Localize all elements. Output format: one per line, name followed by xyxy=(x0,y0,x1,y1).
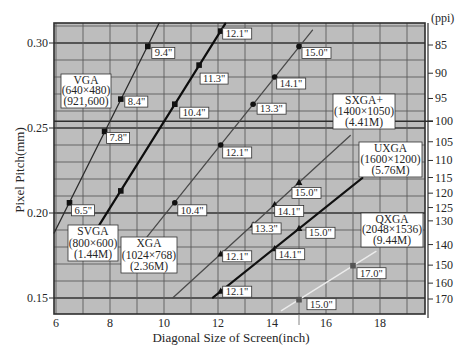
x-tick-label: 18 xyxy=(374,316,386,330)
point-label: 10.4" xyxy=(178,205,207,216)
point-label: 14.1" xyxy=(275,206,304,217)
y2-tick-label: 115 xyxy=(435,171,453,185)
square-marker-icon xyxy=(196,62,202,68)
point-label-text: 12.1" xyxy=(226,147,249,158)
x-tick-label: 12 xyxy=(212,316,224,330)
legend-box-uxga: UXGA(1600×1200)(5.76M) xyxy=(359,142,422,177)
legend-pixel-count: (921,600) xyxy=(63,95,108,108)
point-label: 11.3" xyxy=(200,73,228,84)
point-label: 6.5" xyxy=(72,205,95,216)
legend-pixel-count: (9.44M) xyxy=(373,234,411,247)
point-label-text: 12.1" xyxy=(226,286,249,297)
point-label: 13.3" xyxy=(257,103,286,114)
point-label: 12.1" xyxy=(223,251,252,262)
legend-pixel-count: (2.36M) xyxy=(130,260,168,273)
y2-tick-label: 150 xyxy=(435,258,453,272)
x-tick-label: 10 xyxy=(158,316,170,330)
legend-series-name: SVGA xyxy=(77,225,109,237)
point-label: 12.1" xyxy=(223,147,252,158)
legend-pixel-count: (1.44M) xyxy=(74,248,112,261)
point-label: 12.1" xyxy=(223,28,252,39)
point-label: 15.0" xyxy=(292,187,321,198)
point-label-text: 14.1" xyxy=(279,249,302,260)
circle-marker-icon xyxy=(296,44,302,50)
square-marker-icon xyxy=(172,101,178,107)
point-label-text: 10.4" xyxy=(181,205,204,216)
square-marker-icon xyxy=(296,297,302,303)
x-tick-label: 14 xyxy=(266,316,278,330)
point-label-text: 15.0" xyxy=(309,227,332,238)
point-label-text: 12.1" xyxy=(226,28,249,39)
y2-tick-label: 105 xyxy=(435,135,453,149)
point-label: 15.0" xyxy=(307,299,336,310)
point-label: 12.1" xyxy=(223,286,252,297)
point-label: 10.4" xyxy=(180,107,209,118)
legend-pixel-count: (5.76M) xyxy=(371,164,409,177)
point-label-text: 14.1" xyxy=(280,78,303,89)
x-axis-title: Diagonal Size of Screen(inch) xyxy=(152,330,309,345)
point-label-text: 9.4" xyxy=(155,47,172,58)
point-label-text: 13.3" xyxy=(260,103,283,114)
circle-marker-icon xyxy=(250,101,256,107)
point-label-text: 13.3" xyxy=(255,223,278,234)
point-label-text: 15.0" xyxy=(310,299,333,310)
legend-box-vga: VGA(640×480)(921,600) xyxy=(61,74,111,108)
y2-tick-label: 170 xyxy=(435,292,453,306)
circle-marker-icon xyxy=(172,200,178,206)
point-label-text: 14.1" xyxy=(278,206,301,217)
y2-axis-title: (ppi) xyxy=(431,11,454,25)
y2-tick-label: 160 xyxy=(435,276,453,290)
y-tick-label: 0.20 xyxy=(27,206,48,220)
legend-box-qxga: QXGA(2048×1536)(9.44M) xyxy=(361,213,423,247)
x-tick-label: 6 xyxy=(53,316,59,330)
point-label: 8.4" xyxy=(125,96,148,107)
point-label: 17.0" xyxy=(357,268,386,279)
point-label-text: 17.0" xyxy=(360,268,383,279)
square-marker-icon xyxy=(118,96,124,102)
square-marker-icon xyxy=(350,263,356,269)
legend-box-xga: XGA(1024×768)(2.36M) xyxy=(121,237,177,273)
y2-tick-label: 120 xyxy=(435,186,453,200)
point-label: 14.1" xyxy=(276,249,305,260)
y2-tick-label: 90 xyxy=(435,66,447,80)
point-label-text: 12.1" xyxy=(226,251,249,262)
x-tick-label: 16 xyxy=(320,316,332,330)
point-label: 15.0" xyxy=(306,227,335,238)
point-label-text: 6.5" xyxy=(75,205,92,216)
point-label-text: 11.3" xyxy=(203,73,225,84)
point-label-text: 10.4" xyxy=(183,107,206,118)
y-axis-title: Pixel Pitch(mm) xyxy=(12,127,27,213)
y2-tick-label: 130 xyxy=(435,214,453,228)
point-label: 9.4" xyxy=(152,47,175,58)
y-tick-label: 0.25 xyxy=(27,121,48,135)
y2-tick-label: 125 xyxy=(435,201,453,215)
y2-tick-label: 100 xyxy=(435,114,453,128)
y2-tick-label: 110 xyxy=(435,153,453,167)
point-label-text: 15.0" xyxy=(305,47,328,58)
pixel-pitch-chart: 6810121416180.150.200.250.30859095100105… xyxy=(0,0,471,360)
y2-tick-label: 85 xyxy=(435,38,447,52)
point-label-text: 15.0" xyxy=(295,187,318,198)
y-tick-label: 0.15 xyxy=(27,291,48,305)
legend-box-sxga: SXGA+(1400×1050)(4.41M) xyxy=(333,94,395,129)
y2-tick-label: 95 xyxy=(435,91,447,105)
point-label-text: 8.4" xyxy=(128,96,145,107)
point-label: 13.3" xyxy=(252,223,281,234)
point-label: 7.8" xyxy=(107,132,130,143)
y2-tick-label: 140 xyxy=(435,238,453,252)
square-marker-icon xyxy=(118,188,124,194)
square-marker-icon xyxy=(145,44,151,50)
x-tick-label: 8 xyxy=(107,316,113,330)
point-label: 15.0" xyxy=(302,47,331,58)
legend-box-svga: SVGA(800×600)(1.44M) xyxy=(68,225,118,261)
y-tick-label: 0.30 xyxy=(27,36,48,50)
point-label-text: 7.8" xyxy=(110,132,127,143)
legend-series-name: XGA xyxy=(137,237,163,249)
point-label: 14.1" xyxy=(277,78,306,89)
legend-pixel-count: (4.41M) xyxy=(345,116,383,129)
